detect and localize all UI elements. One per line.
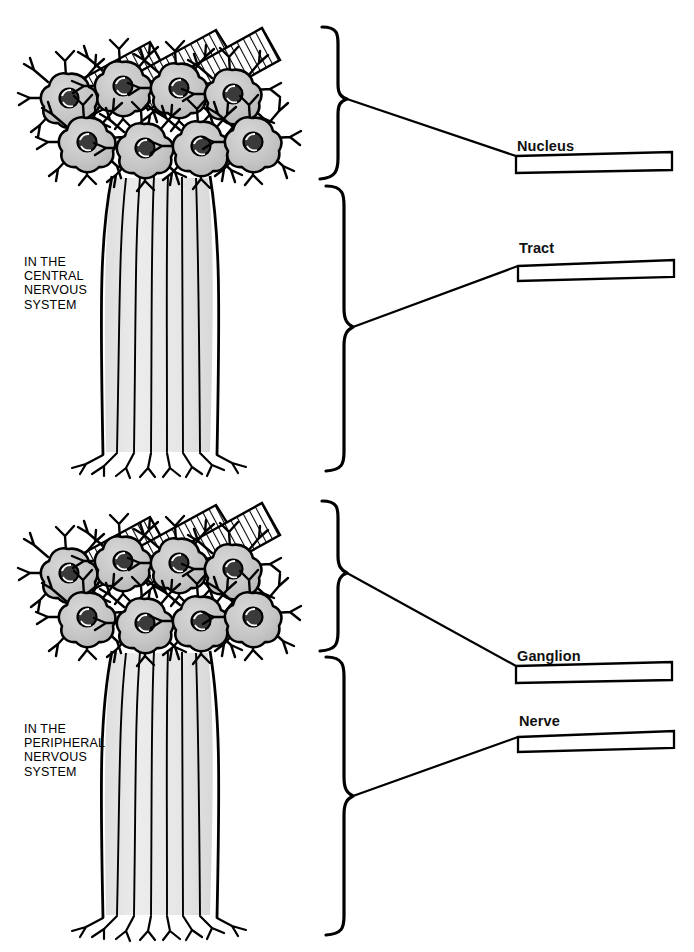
nervous-system-diagram: IN THE CENTRAL NERVOUS SYSTEM IN THE PER… [0, 0, 694, 952]
brace-nerve [326, 657, 353, 935]
callout-label-nucleus: Nucleus [517, 138, 574, 154]
axon-bundle [72, 176, 246, 478]
leader-line-nucleus [347, 99, 516, 156]
neuron-cell-body-cluster [18, 503, 301, 666]
brace-tract [326, 186, 353, 471]
callout-box-nerve [518, 731, 674, 752]
brace-ganglion [320, 501, 347, 651]
region-label-cns: IN THE CENTRAL NERVOUS SYSTEM [24, 255, 87, 312]
cns-neuron-group [18, 28, 301, 478]
leader-line-tract [353, 266, 518, 327]
brace-nucleus [320, 27, 347, 179]
callout-label-ganglion: Ganglion [517, 648, 581, 664]
callout-box-nucleus [516, 152, 672, 173]
leader-line-ganglion [347, 573, 516, 666]
diagram-artwork [0, 0, 694, 952]
callout-label-tract: Tract [519, 240, 554, 256]
neuron-cell-body-cluster [18, 28, 301, 191]
leader-line-nerve [353, 737, 518, 796]
callout-box-ganglion [516, 662, 672, 683]
region-label-pns: IN THE PERIPHERAL NERVOUS SYSTEM [24, 722, 105, 779]
axon-bundle [72, 651, 246, 941]
callout-box-tract [518, 260, 674, 281]
callout-label-nerve: Nerve [519, 713, 560, 729]
